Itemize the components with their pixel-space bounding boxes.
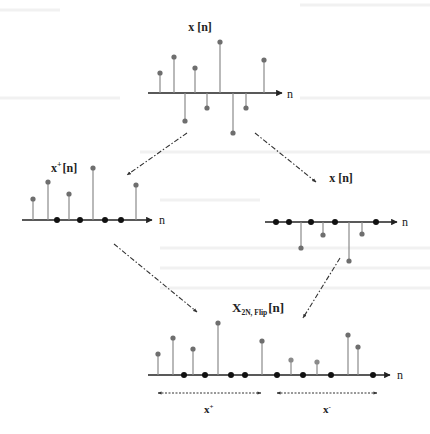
stems <box>273 219 379 264</box>
zero-sample-dot <box>228 372 234 378</box>
sample-dot <box>157 70 162 75</box>
sample-dot <box>204 105 209 110</box>
zero-sample-dot <box>300 372 306 378</box>
sample-dot <box>155 351 160 356</box>
sample-dot <box>133 182 138 187</box>
stems <box>30 165 138 223</box>
sample-dot <box>215 320 220 325</box>
axis-label-n: n <box>397 368 403 382</box>
plot-title-x-minus-n: x [n] <box>329 171 353 185</box>
axis-label-n: n <box>159 213 165 227</box>
sample-dot <box>66 191 71 196</box>
stems <box>155 320 376 378</box>
plot-x-2n-flip: X2N, Flip[n] n x+ x- <box>148 300 403 415</box>
background-texture <box>0 5 430 288</box>
sample-dot <box>171 54 176 59</box>
sample-dot <box>30 196 35 201</box>
range-label-x-plus: x+ <box>204 403 214 415</box>
zero-sample-dot <box>118 217 124 223</box>
sample-dot <box>192 65 197 70</box>
zero-sample-dot <box>370 372 376 378</box>
sample-dot <box>345 332 350 337</box>
zero-sample-dot <box>274 372 280 378</box>
zero-sample-dot <box>102 217 108 223</box>
sample-dot <box>288 357 293 362</box>
zero-sample-dot <box>242 372 248 378</box>
zero-sample-dot <box>273 219 279 225</box>
sample-dot <box>190 346 195 351</box>
plot-title-x-2n-flip: X2N, Flip[n] <box>232 300 284 317</box>
zero-sample-dot <box>332 219 338 225</box>
sample-dot <box>320 232 325 237</box>
sample-dot <box>298 245 303 250</box>
range-label-x-minus: x- <box>323 403 332 415</box>
sample-dot <box>182 118 187 123</box>
sample-dot <box>170 335 175 340</box>
dashdot-arrow-1 <box>127 133 187 175</box>
sample-dot <box>355 344 360 349</box>
sample-dot <box>261 57 266 62</box>
sample-dot <box>90 165 95 170</box>
transition-arrows <box>114 133 340 318</box>
zero-sample-dot <box>286 219 292 225</box>
axis-label-n: n <box>287 87 293 101</box>
sample-dot <box>243 105 248 110</box>
sample-dot <box>45 179 50 184</box>
sample-dot <box>217 39 222 44</box>
sample-dot <box>346 258 351 263</box>
plot-x-n-original: x [n] n <box>148 20 293 136</box>
stems <box>157 39 266 135</box>
zero-sample-dot <box>373 219 379 225</box>
dashdot-arrow-3 <box>114 244 197 312</box>
sample-dot <box>230 130 235 135</box>
zero-sample-dot <box>181 372 187 378</box>
plot-x-plus-n: x+[n] n <box>22 160 165 227</box>
zero-sample-dot <box>202 372 208 378</box>
zero-sample-dot <box>328 372 334 378</box>
sample-dot <box>259 338 264 343</box>
plot-title-x-n: x [n] <box>188 20 212 34</box>
plot-x-minus-n: x [n] n <box>265 171 408 264</box>
plot-title-x-plus-n: x+[n] <box>51 160 77 175</box>
sample-dot <box>314 359 319 364</box>
zero-sample-dot <box>308 219 314 225</box>
axis-label-n: n <box>402 215 408 229</box>
signal-flip-diagram: x [n] n x+[n] n x [n] n X2N, Flip[n] n x… <box>0 0 430 434</box>
sample-dot <box>359 231 364 236</box>
dashdot-arrow-2 <box>255 133 316 182</box>
zero-sample-dot <box>77 217 83 223</box>
zero-sample-dot <box>54 217 60 223</box>
